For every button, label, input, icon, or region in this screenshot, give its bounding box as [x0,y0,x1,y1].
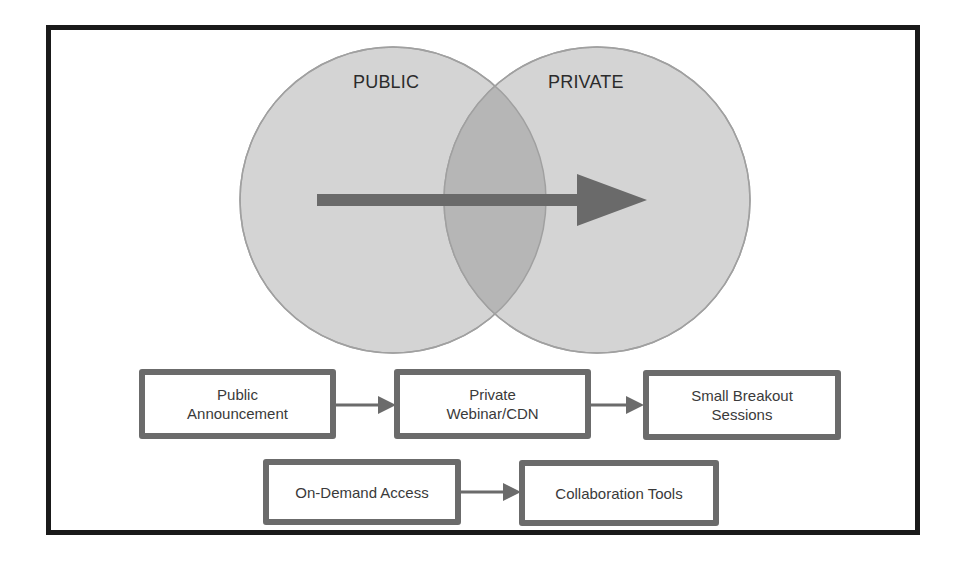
small-breakout-sessions-box: Small Breakout Sessions [643,370,841,440]
public-label: PUBLIC [353,72,419,93]
on-demand-access-box: On-Demand Access [263,459,461,525]
box-text-line: Sessions [691,405,793,424]
public-announcement-box: Public Announcement [139,369,336,439]
connector-arrow-icon [590,396,644,414]
venn-diagram [0,0,965,567]
box-text-line: Private [446,385,538,404]
box-text-line: Collaboration Tools [555,484,682,503]
box-text-line: Announcement [187,404,288,423]
connector-arrow-icon [335,396,396,414]
private-webinar-box: Private Webinar/CDN [394,369,591,439]
collaboration-tools-box: Collaboration Tools [519,460,719,526]
connector-arrow-icon [460,483,521,501]
box-text-line: Public [187,385,288,404]
box-text-line: Webinar/CDN [446,404,538,423]
box-text-line: On-Demand Access [295,483,428,502]
box-text-line: Small Breakout [691,386,793,405]
private-label: PRIVATE [548,72,624,93]
